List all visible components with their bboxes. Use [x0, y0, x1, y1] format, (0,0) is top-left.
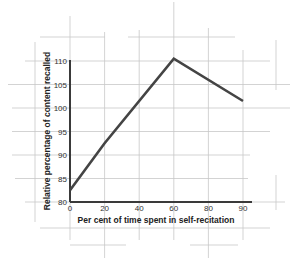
- x-tick-0: 0: [68, 204, 73, 213]
- y-tick-105: 105: [54, 81, 68, 90]
- x-tick-labels: 02040608090: [68, 204, 248, 213]
- y-tick-100: 100: [54, 104, 68, 113]
- y-tick-110: 110: [54, 57, 67, 66]
- x-tick-20: 20: [100, 204, 109, 213]
- x-tick-90: 90: [239, 204, 248, 213]
- y-tick-95: 95: [58, 128, 67, 137]
- y-axis-label: Relative percentage of content recalled: [42, 52, 52, 210]
- line-chart: 80859095100105110 02040608090 Per cent o…: [0, 0, 295, 267]
- y-tick-labels: 80859095100105110: [54, 57, 68, 207]
- x-tick-60: 60: [169, 204, 178, 213]
- data-line: [70, 59, 243, 191]
- y-tick-85: 85: [58, 175, 67, 184]
- y-tick-80: 80: [58, 198, 67, 207]
- x-axis-label: Per cent of time spent in self-recitatio…: [78, 215, 235, 225]
- x-tick-40: 40: [135, 204, 144, 213]
- axes: [70, 60, 252, 202]
- x-tick-80: 80: [204, 204, 213, 213]
- y-tick-90: 90: [58, 151, 67, 160]
